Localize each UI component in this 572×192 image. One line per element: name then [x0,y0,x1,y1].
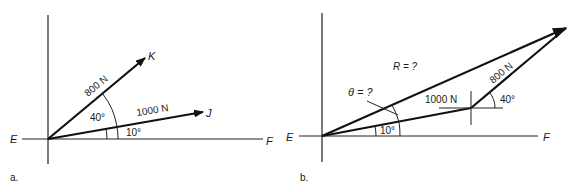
vector-1000n-b [322,108,471,136]
angle-arc-10-outer [117,127,118,139]
axis-label-f-a: F [266,135,274,147]
angle-label-40-b: 40° [500,94,515,105]
resultant-vector-r [322,28,566,136]
theta-label: θ = ? [348,86,374,98]
caption-b: b. [300,172,308,183]
vector-1000n-label-b: 1000 N [425,94,457,105]
angle-label-10-a: 10° [126,127,141,138]
angle-arc-10-b-outer [399,122,400,136]
axis-label-f-b: F [543,131,551,143]
panel-b: E F R = ? θ = ? 1000 N 800 N 40° 10° b. [286,13,566,183]
axis-label-e-a: E [10,133,18,145]
vector-k-magnitude: 800 N [82,73,110,99]
vector-j-magnitude: 1000 N [136,102,170,118]
angle-arc-40-b [490,93,496,109]
angle-label-10-b: 10° [380,125,395,136]
panel-a: E F K J 800 N 1000 N 40° 10° a. [10,15,274,183]
force-vector-diagram: E F K J 800 N 1000 N 40° 10° a. E [0,0,572,192]
axis-label-e-b: E [286,131,294,143]
endpoint-label-k: K [148,50,156,62]
angle-label-40-a: 40° [90,112,105,123]
angle-arc-10-b-inner [375,126,376,136]
vector-800n-b [471,28,566,108]
endpoint-label-j: J [205,107,212,119]
resultant-label: R = ? [393,61,418,72]
angle-arc-10-inner [106,129,107,139]
caption-a: a. [10,172,18,183]
